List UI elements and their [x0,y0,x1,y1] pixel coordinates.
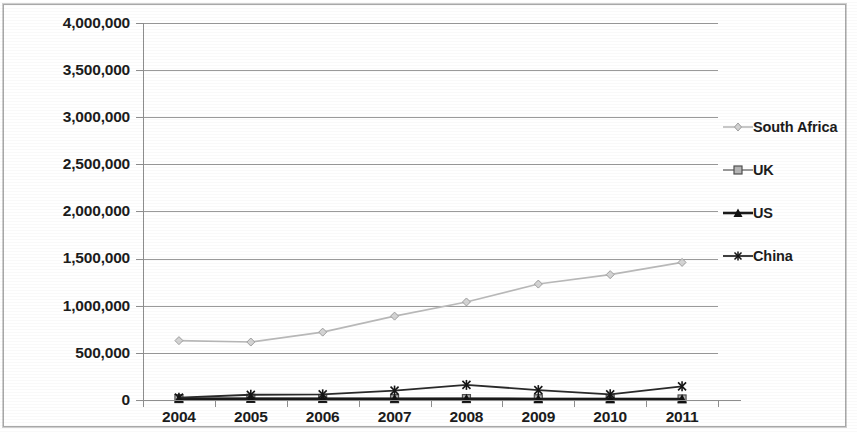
y-axis-tick [136,306,144,307]
legend-marker-star-icon [723,249,753,263]
y-tick-label: 1,500,000 [63,249,130,267]
data-point-diamond-icon [678,258,686,266]
legend-item-us[interactable]: US [723,204,773,222]
data-point-diamond-icon [534,280,542,288]
legend-label: South Africa [753,119,837,135]
series-south-africa [175,258,686,346]
legend-marker-diamond-icon [723,120,753,134]
x-axis-tick [502,400,503,407]
legend-label: China [753,248,793,264]
x-axis-line [143,400,741,401]
data-point-diamond-icon [606,271,614,279]
x-axis-tick [574,400,575,407]
x-axis-tick [215,400,216,407]
legend-marker-triangle-icon [723,206,753,220]
chart-figure: 4,000,000 3,500,000 3,000,000 2,500,000 … [0,0,857,432]
x-axis-tick [287,400,288,407]
data-point-diamond-icon [247,338,255,346]
y-axis-tick [136,259,144,260]
x-tick-label: 2005 [234,408,268,426]
y-axis-labels: 4,000,000 3,500,000 3,000,000 2,500,000 … [8,0,130,432]
x-tick-label: 2010 [593,408,627,426]
legend-item-china[interactable]: China [723,247,793,265]
x-tick-label: 2008 [450,408,484,426]
y-tick-label: 3,000,000 [63,108,130,126]
y-axis-tick [136,353,144,354]
data-point-diamond-icon [462,298,470,306]
x-axis-tick [718,400,719,407]
y-tick-label: 2,000,000 [63,202,130,220]
data-point-diamond-icon [175,337,183,345]
y-tick-label: 500,000 [75,344,130,362]
y-axis-tick [136,117,144,118]
legend-marker-square-icon [723,163,753,177]
legend-item-uk[interactable]: UK [723,161,774,179]
x-axis-tick [359,400,360,407]
y-axis-tick [136,211,144,212]
x-axis-tick [646,400,647,407]
legend-label: UK [753,162,774,178]
x-tick-label: 2007 [378,408,412,426]
series-lines [143,23,718,400]
x-tick-label: 2011 [666,408,699,426]
y-tick-label: 0 [122,391,130,409]
y-axis-tick [136,70,144,71]
legend-label: US [753,205,773,221]
x-axis-tick [431,400,432,407]
legend-item-south-africa[interactable]: South Africa [723,118,837,136]
x-tick-label: 2004 [162,408,196,426]
y-axis-tick [136,164,144,165]
x-axis-tick [143,400,144,407]
x-tick-label: 2009 [521,408,555,426]
y-tick-label: 1,000,000 [63,297,130,315]
x-tick-label: 2006 [306,408,340,426]
y-tick-label: 2,500,000 [63,155,130,173]
data-point-diamond-icon [319,328,327,336]
data-point-diamond-icon [391,312,399,320]
y-tick-label: 3,500,000 [63,61,130,79]
y-axis-tick [136,23,144,24]
y-axis-line [143,23,144,401]
y-tick-label: 4,000,000 [63,14,130,32]
plot-area [143,23,718,400]
